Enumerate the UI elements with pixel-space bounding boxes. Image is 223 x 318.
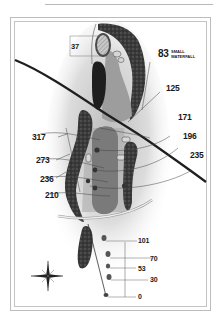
tree [93, 186, 98, 191]
green [97, 35, 109, 55]
distance-label-236: 236 [40, 175, 54, 184]
distance-label-125: 125 [166, 84, 180, 93]
tee-box-70 [106, 251, 111, 257]
hazard-label: SMALL WATERFALL [171, 50, 195, 59]
tee-label-101: 101 [138, 237, 149, 244]
greenside-bunker [118, 58, 124, 63]
compass-rose-icon [31, 261, 63, 291]
tee-box-101 [102, 235, 107, 241]
tee-label-30: 30 [150, 276, 157, 283]
hazard-distance: 83 [158, 49, 169, 59]
distance-label-196: 196 [183, 132, 197, 141]
greenside-bunker [113, 51, 121, 57]
tree [122, 184, 126, 188]
distance-label-235: 235 [190, 151, 204, 160]
fairway-bunker [86, 154, 91, 162]
distance-label-273: 273 [36, 156, 50, 165]
distance-label-210: 210 [45, 191, 59, 200]
tee-label-53: 53 [138, 265, 145, 272]
tee-box-0 [104, 293, 109, 297]
green-depth-label: 37 [71, 43, 79, 51]
tree [86, 179, 90, 183]
distance-label-317: 317 [32, 133, 46, 142]
tee-label-0: 0 [138, 293, 142, 300]
tee-label-70: 70 [150, 255, 157, 262]
tee-box-30 [107, 274, 112, 280]
distance-label-171: 171 [178, 113, 192, 122]
tee-box-53 [106, 263, 110, 268]
fairway-bunker [122, 137, 130, 142]
fairway-bunker [117, 155, 125, 160]
